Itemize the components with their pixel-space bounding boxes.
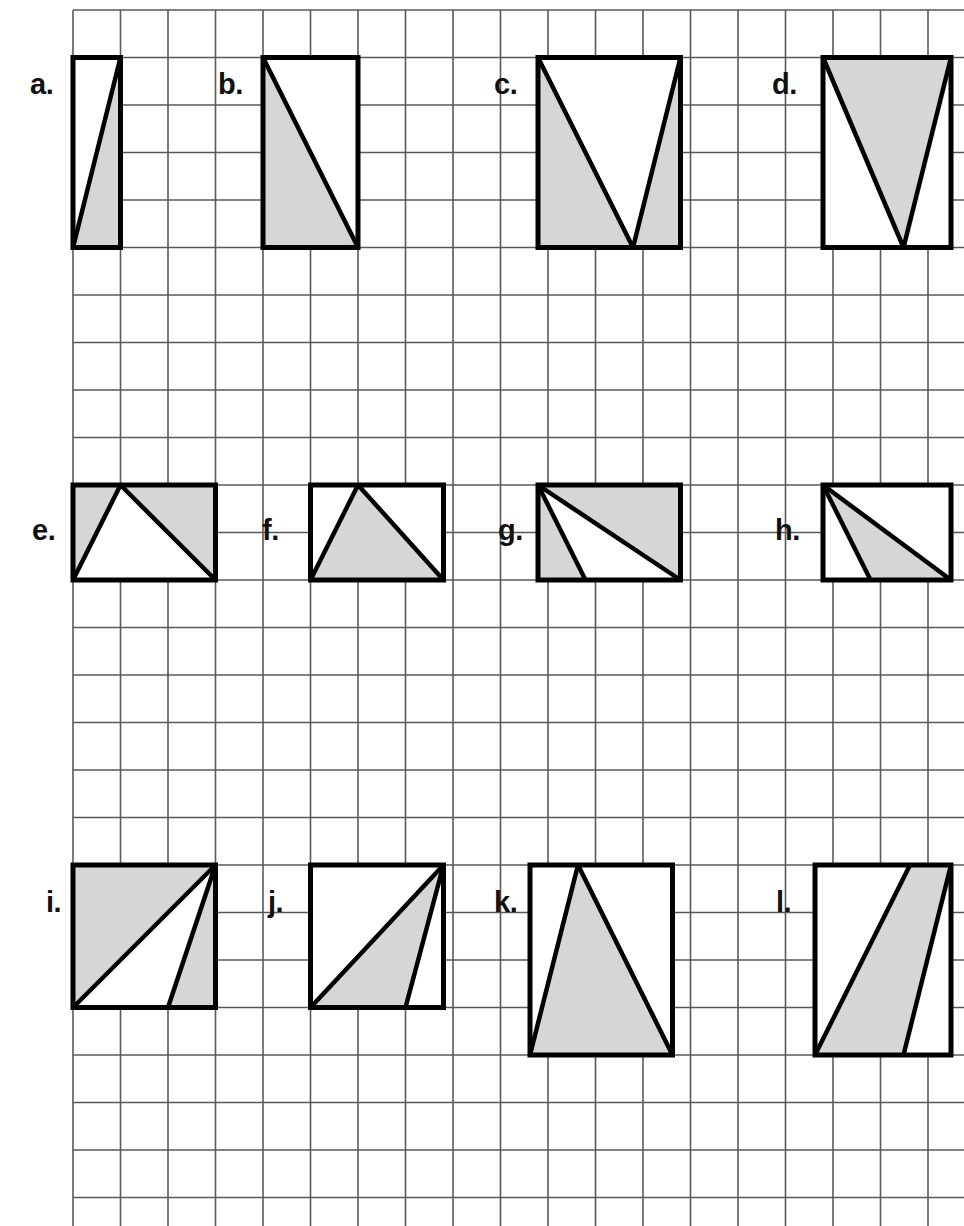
figure-g bbox=[538, 485, 681, 580]
figure-l bbox=[815, 865, 951, 1055]
figure-j bbox=[311, 865, 444, 1008]
figure-e bbox=[73, 485, 216, 580]
figure-h bbox=[823, 485, 951, 580]
figures-layer bbox=[0, 0, 964, 1226]
figures-group bbox=[73, 58, 951, 1056]
figure-a bbox=[73, 58, 121, 248]
figure-c bbox=[538, 58, 681, 248]
figure-i bbox=[73, 865, 216, 1008]
figure-b bbox=[263, 58, 358, 248]
figure-d bbox=[823, 58, 951, 248]
figure-k bbox=[530, 865, 673, 1055]
worksheet-page: a.b.c.d.e.f.g.h.i.j.k.l. bbox=[0, 0, 964, 1226]
figure-f bbox=[311, 485, 444, 580]
